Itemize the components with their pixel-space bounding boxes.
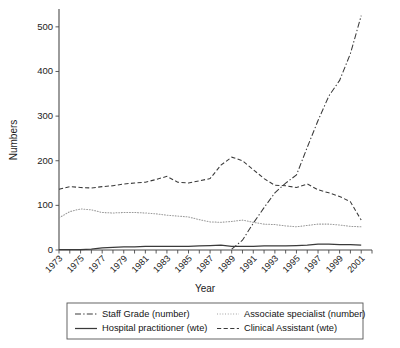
x-tick-label: 1993 xyxy=(259,253,280,274)
x-tick-label: 1979 xyxy=(108,253,129,274)
chart-container: 0100200300400500 19731975197719791981198… xyxy=(0,0,400,348)
x-tick-label: 1985 xyxy=(173,253,194,274)
x-tick-label: 1997 xyxy=(302,253,323,274)
x-tick-label: 1989 xyxy=(216,253,237,274)
x-tick-label: 1991 xyxy=(237,253,258,274)
y-tick-label: 400 xyxy=(37,65,53,76)
y-tick-label: 200 xyxy=(37,155,53,166)
legend-label: Staff Grade (number) xyxy=(102,309,190,319)
x-tick-label: 1983 xyxy=(151,253,172,274)
x-tick-label: 1975 xyxy=(65,253,86,274)
line-chart: 0100200300400500 19731975197719791981198… xyxy=(0,0,400,348)
legend-label: Associate specialist (number) xyxy=(244,309,365,319)
y-axis-title: Numbers xyxy=(8,120,19,161)
x-tick-label: 1987 xyxy=(194,253,215,274)
x-tick-label: 1977 xyxy=(86,253,107,274)
y-tick-label: 0 xyxy=(48,244,53,255)
series-line xyxy=(59,209,361,227)
series-line xyxy=(232,16,362,249)
series-line xyxy=(59,157,361,220)
series-line xyxy=(59,244,361,249)
x-tick-label: 1981 xyxy=(130,253,151,274)
y-axis-ticks: 0100200300400500 xyxy=(37,21,59,255)
x-tick-label: 1995 xyxy=(281,253,302,274)
legend-label: Hospital practitioner (wte) xyxy=(102,323,207,333)
plot-series-group xyxy=(59,16,361,250)
x-axis-ticks: 1973197519771979198119831985198719891991… xyxy=(43,250,372,275)
legend-label: Clinical Assistant (wte) xyxy=(244,323,337,333)
x-tick-label: 1999 xyxy=(324,253,345,274)
y-tick-label: 500 xyxy=(37,21,53,32)
x-axis-title: Year xyxy=(195,283,216,294)
y-tick-label: 100 xyxy=(37,199,53,210)
y-tick-label: 300 xyxy=(37,110,53,121)
chart-axes xyxy=(59,9,372,250)
x-tick-label: 2001 xyxy=(345,253,366,274)
chart-legend: Staff Grade (number)Associate specialist… xyxy=(67,303,365,339)
x-tick-label: 1973 xyxy=(43,253,64,274)
